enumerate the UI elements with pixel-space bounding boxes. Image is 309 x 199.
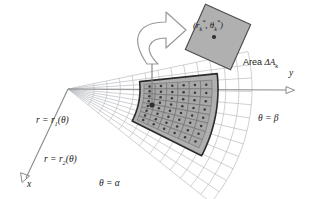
sample-point-dot (182, 98, 185, 101)
sample-point-dot (142, 119, 145, 122)
sample-point-dot (194, 91, 197, 94)
sample-point-dot (187, 129, 190, 132)
sample-point-dot (148, 85, 151, 88)
magnified-cell (185, 4, 250, 69)
sample-point-dot (192, 107, 195, 110)
sample-point-dot (181, 105, 184, 108)
sample-point-dot (205, 100, 208, 103)
y-axis-arrowhead (286, 87, 295, 94)
sample-point-dot (160, 85, 163, 88)
sample-point-dot (193, 99, 196, 102)
sample-point-dot (205, 92, 208, 95)
label-theta-alpha: θ = α (99, 179, 120, 189)
sample-point-dot (182, 91, 185, 94)
sample-point-dot (194, 84, 197, 87)
sample-point-dot (155, 118, 158, 121)
label-axis-x: x (27, 180, 31, 190)
sample-point-dot (152, 123, 155, 126)
label-theta-beta: θ = β (258, 114, 279, 124)
sample-point-dot (205, 83, 208, 86)
sample-point-dot (178, 119, 181, 122)
sample-point-dot (194, 140, 197, 143)
sample-point-dot (167, 116, 170, 119)
sample-point-dot (170, 103, 173, 106)
label-area: Area ΔAk (243, 58, 278, 70)
sample-point-dot (171, 84, 174, 87)
sample-point-dot (158, 107, 161, 110)
sample-point-dot (169, 109, 172, 112)
label-r2: r = r2(θ) (44, 155, 77, 166)
label-r1: r = r1(θ) (36, 116, 69, 127)
sample-point-dot (171, 91, 174, 94)
sample-point-dot (144, 114, 147, 117)
figure-canvas (0, 0, 309, 199)
sample-point-dot (182, 84, 185, 87)
sample-point-dot (147, 105, 150, 108)
sample-point-dot (200, 125, 203, 128)
sample-point-dot (156, 113, 159, 116)
sample-point-dot (147, 100, 150, 103)
callout-arrow (138, 12, 186, 64)
sample-point-dot (159, 102, 162, 105)
sample-point-dot (165, 122, 168, 125)
polar-region-figure: r = r1(θ) r = r2(θ) θ = β θ = α y x (rk*… (0, 0, 309, 199)
sample-point-dot (184, 136, 187, 139)
sample-point-dot (159, 96, 162, 99)
sample-point-dot (176, 125, 179, 128)
sample-point-dot (191, 114, 194, 117)
sample-point-dot (163, 127, 166, 130)
sample-point-dot (180, 112, 183, 115)
sample-point-dot (203, 108, 206, 111)
sample-point-dot (145, 110, 148, 113)
sample-point-dot (148, 95, 151, 98)
sample-point-dot (202, 117, 205, 120)
sample-point-dot (148, 90, 151, 93)
label-sample-point: (rk*, θk*) (193, 19, 223, 33)
label-axis-y: y (289, 69, 293, 79)
sample-point-dot (189, 122, 192, 125)
sample-point-dot (160, 90, 163, 93)
sample-point-dot (171, 97, 174, 100)
sample-point-dot (197, 133, 200, 136)
sample-point-dot (173, 132, 176, 135)
